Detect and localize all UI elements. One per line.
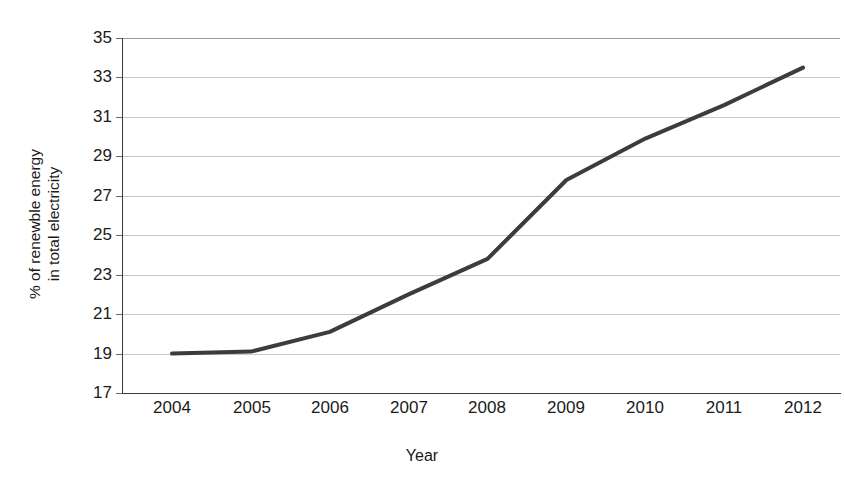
x-tick-label-2005: 2005 [222, 399, 282, 417]
y-tick-mark-29 [116, 156, 122, 157]
y-tick-mark-33 [116, 77, 122, 78]
y-tick-mark-35 [116, 38, 122, 39]
y-tick-mark-31 [116, 117, 122, 118]
y-axis-title-box: % of renewble energy in total electricit… [0, 0, 90, 440]
x-axis-title: Year [0, 447, 844, 465]
x-tick-label-2008: 2008 [457, 399, 517, 417]
chart-page: 35 33 31 29 27 25 23 21 19 17 2004 2005 [0, 0, 844, 489]
x-tick-label-2012: 2012 [773, 399, 833, 417]
x-tick-label-2011: 2011 [694, 399, 754, 417]
y-tick-mark-17 [116, 393, 122, 394]
y-axis-title-line1: % of renewble energy [25, 84, 44, 364]
x-tick-label-2010: 2010 [615, 399, 675, 417]
y-tick-mark-21 [116, 314, 122, 315]
y-tick-mark-25 [116, 235, 122, 236]
x-tick-label-2006: 2006 [300, 399, 360, 417]
x-tick-label-2009: 2009 [536, 399, 596, 417]
y-tick-mark-27 [116, 196, 122, 197]
x-tick-label-2004: 2004 [142, 399, 202, 417]
y-tick-mark-23 [116, 275, 122, 276]
x-tick-label-2007: 2007 [379, 399, 439, 417]
y-tick-mark-19 [116, 354, 122, 355]
y-axis-title: % of renewble energy in total electricit… [25, 84, 63, 364]
y-axis-title-line2: in total electricity [44, 84, 63, 364]
line-chart: 35 33 31 29 27 25 23 21 19 17 2004 2005 [0, 0, 844, 489]
